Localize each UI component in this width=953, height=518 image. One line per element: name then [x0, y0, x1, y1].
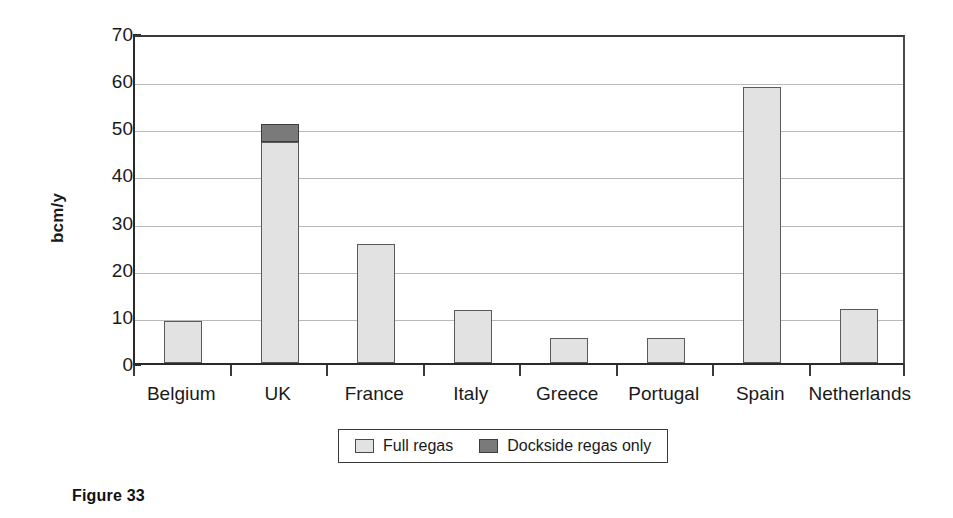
bar-group-greece: [521, 37, 618, 363]
x-axis-tick-row: [133, 365, 905, 377]
plot-area: [133, 35, 905, 365]
figure-33-chart: bcm/y 706050403020100 BelgiumUKFranceIta…: [0, 0, 953, 518]
bar-stack-belgium[interactable]: [164, 321, 202, 363]
x-axis-label-uk: UK: [230, 382, 327, 406]
bars-layer: [135, 37, 903, 363]
x-axis-label-spain: Spain: [712, 382, 809, 406]
x-tick-mark-2: [326, 365, 328, 376]
x-tick-mark-3: [423, 365, 425, 376]
x-axis-label-france: France: [326, 382, 423, 406]
x-axis-label-italy: Italy: [423, 382, 520, 406]
light-gray-swatch: [355, 439, 374, 453]
bar-group-italy: [425, 37, 522, 363]
bar-stack-portugal[interactable]: [647, 338, 685, 363]
bar-segment-spain-full-regas: [743, 87, 781, 363]
bar-stack-greece[interactable]: [550, 338, 588, 363]
bar-group-belgium: [135, 37, 232, 363]
bar-segment-france-full-regas: [357, 244, 395, 363]
bar-segment-uk-dockside-regas-only: [261, 124, 299, 141]
x-tick-mark-5: [616, 365, 618, 376]
y-tick-label-60: 60: [93, 72, 133, 91]
bar-group-spain: [714, 37, 811, 363]
legend-entry-full-regas[interactable]: Full regas: [355, 438, 453, 454]
y-tick-label-40: 40: [93, 166, 133, 185]
y-tick-label-0: 0: [93, 355, 133, 374]
bar-stack-netherlands[interactable]: [840, 309, 878, 363]
x-axis-label-portugal: Portugal: [616, 382, 713, 406]
bar-group-uk: [232, 37, 329, 363]
bar-segment-netherlands-full-regas: [840, 309, 878, 363]
x-tick-mark-8: [903, 365, 905, 376]
bar-segment-portugal-full-regas: [647, 338, 685, 363]
x-tick-mark-1: [230, 365, 232, 376]
y-tick-label-10: 10: [93, 308, 133, 327]
chart-legend: Full regasDockside regas only: [338, 429, 668, 463]
x-tick-mark-6: [712, 365, 714, 376]
figure-caption: Figure 33: [72, 487, 145, 505]
bar-segment-greece-full-regas: [550, 338, 588, 363]
bar-group-france: [328, 37, 425, 363]
y-tick-label-20: 20: [93, 261, 133, 280]
y-axis-title-label: bcm/y: [48, 193, 68, 243]
x-axis-label-belgium: Belgium: [133, 382, 230, 406]
bar-stack-uk[interactable]: [261, 124, 299, 363]
bar-stack-france[interactable]: [357, 244, 395, 363]
x-axis-label-netherlands: Netherlands: [809, 382, 906, 406]
x-tick-mark-4: [519, 365, 521, 376]
dark-gray-swatch: [479, 439, 498, 453]
y-axis-title: bcm/y: [44, 168, 72, 268]
bar-segment-italy-full-regas: [454, 310, 492, 363]
bar-segment-belgium-full-regas: [164, 321, 202, 363]
bar-stack-spain[interactable]: [743, 87, 781, 363]
bar-group-netherlands: [811, 37, 908, 363]
y-tick-label-70: 70: [93, 25, 133, 44]
x-axis-label-greece: Greece: [519, 382, 616, 406]
bar-stack-italy[interactable]: [454, 310, 492, 363]
bar-group-portugal: [618, 37, 715, 363]
y-axis-tick-column: 706050403020100: [85, 35, 133, 365]
legend-label-dockside-regas-only: Dockside regas only: [507, 438, 651, 454]
bar-segment-uk-full-regas: [261, 142, 299, 363]
y-tick-label-30: 30: [93, 214, 133, 233]
x-tick-mark-7: [809, 365, 811, 376]
x-tick-mark-0: [133, 365, 135, 376]
legend-label-full-regas: Full regas: [383, 438, 453, 454]
y-tick-label-50: 50: [93, 119, 133, 138]
legend-entry-dockside-regas-only[interactable]: Dockside regas only: [479, 438, 651, 454]
x-axis-labels: BelgiumUKFranceItalyGreecePortugalSpainN…: [133, 382, 905, 410]
